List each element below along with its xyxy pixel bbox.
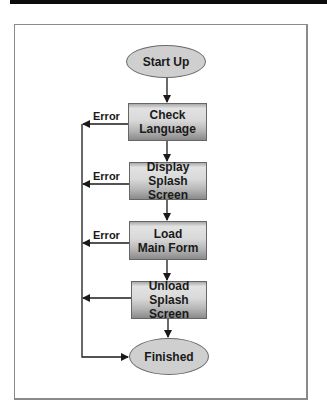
display-splash-label-1: Display xyxy=(147,160,190,174)
display-splash-node: Display Splash Screen xyxy=(129,162,207,200)
display-splash-label-2: Splash Screen xyxy=(130,174,206,202)
unload-splash-label-1: Unload xyxy=(149,279,190,293)
error-label-display: Error xyxy=(93,170,120,182)
error-label-load: Error xyxy=(93,229,120,241)
finished-node: Finished xyxy=(129,338,209,375)
load-main-form-label-2: Main Form xyxy=(138,241,199,255)
load-main-form-node: Load Main Form xyxy=(129,221,207,260)
check-language-label-1: Check xyxy=(149,108,185,122)
start-up-label: Start Up xyxy=(143,55,190,69)
finished-label: Finished xyxy=(144,350,193,364)
error-label-check: Error xyxy=(93,110,120,122)
load-main-form-label-1: Load xyxy=(154,227,183,241)
unload-splash-label-2: Splash Screen xyxy=(132,293,206,321)
start-up-node: Start Up xyxy=(126,45,206,78)
check-language-node: Check Language xyxy=(128,103,207,141)
unload-splash-node: Unload Splash Screen xyxy=(131,281,207,319)
check-language-label-2: Language xyxy=(139,122,196,136)
